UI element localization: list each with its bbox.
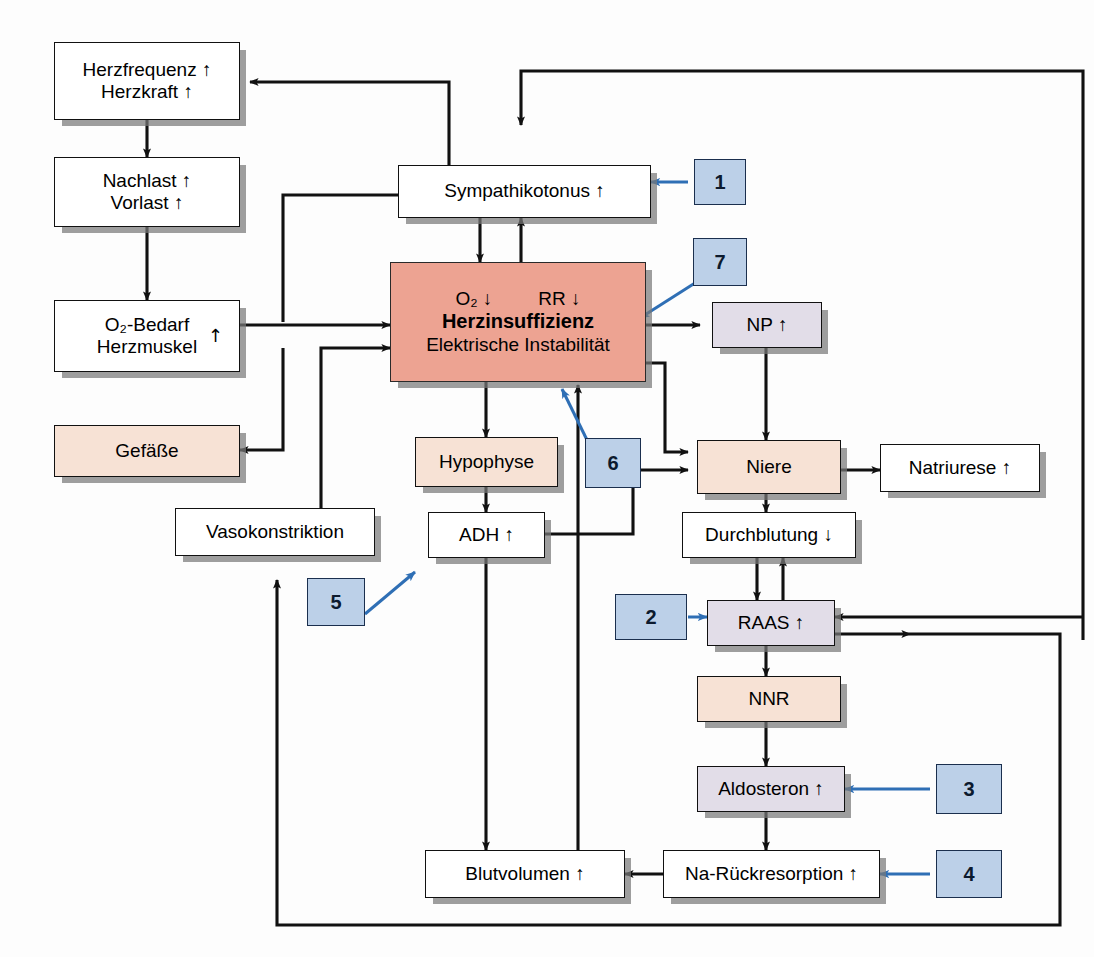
wire-vasokonstriktion-herzinsuffizienz (321, 348, 390, 508)
node-niere[interactable]: Niere (697, 440, 841, 494)
node-aldosteron[interactable]: Aldosteron ↑ (697, 766, 845, 812)
node-nachlast-line2: Vorlast ↑ (111, 192, 184, 214)
node-adh[interactable]: ADH ↑ (428, 512, 545, 558)
wire-sympathikotonus-left-drop (283, 195, 398, 322)
node-herzinsuffizienz[interactable]: O₂ ↓ RR ↓ Herzinsuffizienz Elektrische I… (390, 262, 646, 382)
marker-1-label: 1 (714, 171, 725, 194)
node-o2bedarf-arrow: ↑ (208, 327, 223, 345)
node-o2bedarf[interactable]: O₂-Bedarf Herzmuskel ↑ (54, 300, 240, 372)
node-natriurese[interactable]: Natriurese ↑ (880, 444, 1040, 492)
node-vasokonstriktion[interactable]: Vasokonstriktion (175, 508, 375, 556)
node-aldosteron-label: Aldosteron ↑ (718, 778, 824, 800)
marker-3[interactable]: 3 (936, 764, 1002, 814)
node-narueckresorption-label: Na-Rückresorption ↑ (685, 863, 858, 885)
leader-5 (365, 572, 415, 614)
node-herzfrequenz[interactable]: Herzfrequenz ↑ Herzkraft ↑ (54, 42, 240, 120)
node-natriurese-label: Natriurese ↑ (909, 457, 1011, 479)
marker-7-label: 7 (714, 251, 725, 274)
node-herzfrequenz-line2: Herzkraft ↑ (101, 81, 193, 103)
node-durchblutung-label: Durchblutung ↓ (705, 524, 833, 546)
herzinsuffizienz-subtitle: Elektrische Instabilität (426, 334, 610, 356)
node-blutvolumen-label: Blutvolumen ↑ (465, 863, 584, 885)
diagram-canvas: Herzfrequenz ↑ Herzkraft ↑ Nachlast ↑ Vo… (0, 0, 1094, 957)
node-narueckresorption[interactable]: Na-Rückresorption ↑ (663, 850, 880, 898)
marker-1[interactable]: 1 (694, 159, 746, 205)
wire-herzinsuffizienz-niere (646, 363, 688, 452)
node-blutvolumen[interactable]: Blutvolumen ↑ (425, 850, 625, 898)
node-o2bedarf-line1: O₂-Bedarf (105, 314, 189, 336)
node-gefaesse[interactable]: Gefäße (54, 425, 240, 477)
node-np[interactable]: NP ↑ (712, 302, 822, 348)
marker-2[interactable]: 2 (615, 594, 687, 640)
marker-4[interactable]: 4 (936, 850, 1002, 898)
wire-sympathikotonus-herzfrequenz (250, 82, 449, 168)
node-hypophyse[interactable]: Hypophyse (415, 437, 558, 487)
node-gefaesse-label: Gefäße (115, 440, 178, 462)
marker-7[interactable]: 7 (693, 238, 747, 286)
herzinsuffizienz-title: Herzinsuffizienz (442, 310, 594, 334)
node-niere-label: Niere (746, 456, 791, 478)
node-adh-label: ADH ↑ (459, 524, 514, 546)
node-raas-label: RAAS ↑ (738, 612, 805, 634)
marker-5-label: 5 (330, 591, 341, 614)
leader-7 (640, 283, 695, 318)
marker-5[interactable]: 5 (307, 578, 365, 626)
node-sympathikotonus-label: Sympathikotonus ↑ (444, 180, 605, 202)
node-nachlast-line1: Nachlast ↑ (103, 170, 192, 192)
marker-2-label: 2 (645, 606, 656, 629)
wire-sympathikotonus-gefaesse (240, 348, 283, 450)
node-o2bedarf-line2: Herzmuskel (97, 336, 197, 358)
node-nnr-label: NNR (748, 688, 789, 710)
node-nachlast[interactable]: Nachlast ↑ Vorlast ↑ (54, 157, 240, 227)
herzinsuffizienz-toprow: O₂ ↓ RR ↓ (455, 288, 580, 310)
node-herzfrequenz-line1: Herzfrequenz ↑ (83, 59, 212, 81)
marker-6[interactable]: 6 (585, 438, 641, 488)
node-hypophyse-label: Hypophyse (439, 451, 534, 473)
herzinsuffizienz-o2: O₂ ↓ (455, 288, 492, 310)
node-vasokonstriktion-label: Vasokonstriktion (206, 521, 344, 543)
node-np-label: NP ↑ (747, 314, 788, 336)
node-sympathikotonus[interactable]: Sympathikotonus ↑ (398, 165, 651, 218)
marker-3-label: 3 (963, 778, 974, 801)
node-durchblutung[interactable]: Durchblutung ↓ (682, 512, 856, 558)
herzinsuffizienz-rr: RR ↓ (538, 288, 580, 310)
leader-6 (562, 389, 588, 442)
node-raas[interactable]: RAAS ↑ (707, 600, 835, 646)
node-nnr[interactable]: NNR (697, 676, 841, 722)
marker-4-label: 4 (963, 863, 974, 886)
marker-6-label: 6 (607, 452, 618, 475)
